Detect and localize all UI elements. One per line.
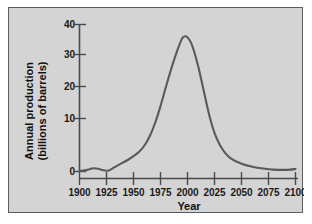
annual-production-line-chart: Annual production (billions of barrels) … [9,8,304,214]
x-tick-label-1950: 1950 [122,187,145,198]
y-axis-title: Annual production (billions of barrels) [23,61,48,160]
x-tick-label-2075: 2075 [257,187,280,198]
x-tick-label-2100: 2100 [284,187,304,198]
x-tick-label-2000: 2000 [176,187,199,198]
y-axis-title-line1: Annual production [23,62,35,160]
chart-figure: Annual production (billions of barrels) … [8,7,303,213]
production-curve [80,36,296,171]
x-tick-label-2025: 2025 [203,187,226,198]
x-tick-label-2050: 2050 [230,187,253,198]
x-axis-title: Year [177,200,201,212]
x-tick-label-1925: 1925 [95,187,118,198]
y-axis-title-line2: (billions of barrels) [36,61,48,160]
x-tick-label-1975: 1975 [149,187,172,198]
x-tick-label-1900: 1900 [68,187,91,198]
